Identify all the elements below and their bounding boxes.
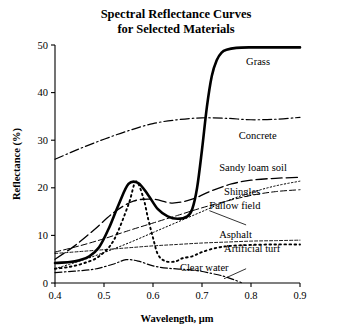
y-tick-label: 50 <box>38 40 49 51</box>
curve-label-fallow-field: Fallow field <box>209 200 261 211</box>
curve-label-grass: Grass <box>246 56 270 67</box>
curve-label-sandy-loam-soil: Sandy loam soil <box>219 162 287 173</box>
curve-label-clear-water: Clear water <box>180 262 229 273</box>
curve-label-concrete: Concrete <box>239 130 277 141</box>
y-axis-title: Reflectance (%) <box>11 128 23 201</box>
x-tick-label: 0.5 <box>97 290 110 301</box>
y-tick-label: 0 <box>43 278 48 289</box>
curve-label-artificial-turf: Artificial turf <box>224 243 281 254</box>
curve-label-shingles: Shingles <box>224 186 260 197</box>
chart-title: Spectral Reflectance Curves for Selected… <box>101 7 252 36</box>
spectral-reflectance-chart: Spectral Reflectance Curves for Selected… <box>0 0 351 328</box>
curve-label-asphalt: Asphalt <box>219 229 252 240</box>
x-tick-label: 0.9 <box>293 290 306 301</box>
chart-background <box>0 0 351 328</box>
x-tick-label: 0.8 <box>244 290 257 301</box>
x-axis-title: Wavelength, μm <box>140 313 213 324</box>
y-tick-label: 10 <box>38 230 49 241</box>
y-tick-label: 30 <box>38 135 49 146</box>
x-tick-label: 0.7 <box>195 290 208 301</box>
chart-title-line-1: Spectral Reflectance Curves <box>101 7 252 21</box>
chart-title-line-2: for Selected Materials <box>117 22 234 36</box>
x-tick-label: 0.4 <box>48 290 62 301</box>
x-tick-label: 0.6 <box>146 290 159 301</box>
y-tick-label: 20 <box>38 182 49 193</box>
y-tick-label: 40 <box>38 87 49 98</box>
